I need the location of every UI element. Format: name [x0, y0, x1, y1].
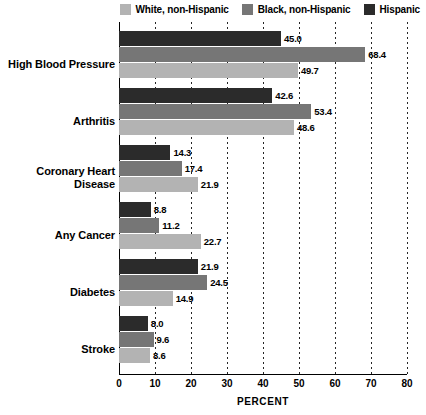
plot-area: 45.068.449.742.653.448.614.317.421.98.81…: [119, 22, 407, 375]
bar-hispanic: [119, 316, 148, 331]
bar-row: 45.0: [119, 31, 407, 46]
bar-row: 14.9: [119, 291, 407, 306]
x-tick-label-40: 40: [251, 378, 275, 390]
category-label-line: High Blood Pressure: [0, 58, 115, 71]
legend-item-white-non-hispanic: White, non-Hispanic: [120, 4, 229, 15]
bar-value-label: 8.8: [154, 203, 167, 216]
legend-label-black-non-hispanic: Black, non-Hispanic: [258, 4, 351, 15]
bar-value-label: 68.4: [368, 48, 386, 61]
bar-value-label: 53.4: [314, 105, 332, 118]
bar-white-non-hispanic: [119, 291, 173, 306]
category-axis-labels: High Blood Pressure Arthritis Coronary H…: [0, 22, 115, 375]
bar-hispanic: [119, 88, 272, 103]
bar-white-non-hispanic: [119, 177, 198, 192]
bar-hispanic: [119, 31, 281, 46]
category-label-line: Disease: [0, 178, 115, 191]
gridline-80: [407, 22, 408, 374]
category-label-line: Arthritis: [0, 115, 115, 128]
bar-black-non-hispanic: [119, 47, 365, 62]
bar-value-label: 11.2: [162, 219, 179, 232]
bar-hispanic: [119, 145, 170, 160]
x-axis-title: PERCENT: [119, 396, 407, 407]
bar-value-label: 17.4: [185, 162, 203, 175]
bar-row: 9.6: [119, 332, 407, 347]
bar-row: 8.0: [119, 316, 407, 331]
bar-black-non-hispanic: [119, 275, 207, 290]
bar-row: 68.4: [119, 47, 407, 62]
category-label-any-cancer: Any Cancer: [0, 229, 115, 242]
x-axis-line: [119, 374, 407, 375]
bar-row: 21.9: [119, 177, 407, 192]
bar-hispanic: [119, 259, 198, 274]
bar-value-label: 14.9: [176, 292, 194, 305]
bar-value-label: 8.0: [151, 317, 164, 330]
bar-white-non-hispanic: [119, 348, 150, 363]
legend-item-hispanic: Hispanic: [364, 4, 420, 15]
bar-row: 8.8: [119, 202, 407, 217]
bar-row: 8.6: [119, 348, 407, 363]
x-tick-label-30: 30: [215, 378, 239, 390]
x-tick-label-10: 10: [143, 378, 167, 390]
bar-value-label: 22.7: [204, 235, 222, 248]
bar-value-label: 45.0: [284, 32, 302, 45]
bar-value-label: 21.9: [201, 178, 219, 191]
category-label-line: Coronary Heart: [0, 165, 115, 178]
bar-chart: White, non-Hispanic Black, non-Hispanic …: [0, 0, 426, 415]
bar-white-non-hispanic: [119, 234, 201, 249]
bar-row: 11.2: [119, 218, 407, 233]
x-tick-label-0: 0: [107, 378, 131, 390]
bar-hispanic: [119, 202, 151, 217]
bar-row: 14.3: [119, 145, 407, 160]
category-label-line: Any Cancer: [0, 229, 115, 242]
bar-row: 24.5: [119, 275, 407, 290]
bar-row: 17.4: [119, 161, 407, 176]
bar-group-diabetes: 21.924.514.9: [119, 259, 407, 307]
bar-value-label: 21.9: [201, 260, 219, 273]
x-tick-label-70: 70: [359, 378, 383, 390]
bar-value-label: 9.6: [157, 333, 170, 346]
x-tick-label-50: 50: [287, 378, 311, 390]
bar-value-label: 8.6: [153, 349, 166, 362]
bar-row: 21.9: [119, 259, 407, 274]
legend-item-black-non-hispanic: Black, non-Hispanic: [242, 4, 351, 15]
legend-swatch-black-non-hispanic: [242, 4, 253, 15]
category-label-high-blood-pressure: High Blood Pressure: [0, 58, 115, 71]
legend-label-hispanic: Hispanic: [380, 4, 420, 15]
bar-row: 22.7: [119, 234, 407, 249]
category-label-diabetes: Diabetes: [0, 286, 115, 299]
bar-black-non-hispanic: [119, 104, 311, 119]
bar-row: 48.6: [119, 120, 407, 135]
bar-group-arthritis: 42.653.448.6: [119, 88, 407, 136]
legend-swatch-hispanic: [364, 4, 375, 15]
bar-row: 53.4: [119, 104, 407, 119]
bar-value-label: 14.3: [173, 146, 191, 159]
category-label-line: Stroke: [0, 343, 115, 356]
category-label-line: Diabetes: [0, 286, 115, 299]
bar-value-label: 24.5: [210, 276, 228, 289]
bar-group-coronary-heart-disease: 14.317.421.9: [119, 145, 407, 193]
bar-black-non-hispanic: [119, 332, 154, 347]
x-tick-label-60: 60: [323, 378, 347, 390]
chart-legend: White, non-Hispanic Black, non-Hispanic …: [0, 1, 426, 18]
legend-swatch-white-non-hispanic: [120, 4, 131, 15]
bar-black-non-hispanic: [119, 218, 159, 233]
bar-black-non-hispanic: [119, 161, 182, 176]
category-label-stroke: Stroke: [0, 343, 115, 356]
bar-row: 42.6: [119, 88, 407, 103]
category-label-coronary-heart-disease: Coronary Heart Disease: [0, 165, 115, 191]
bar-group-any-cancer: 8.811.222.7: [119, 202, 407, 250]
bar-group-high-blood-pressure: 45.068.449.7: [119, 31, 407, 79]
bar-group-stroke: 8.09.68.6: [119, 316, 407, 364]
bar-white-non-hispanic: [119, 63, 298, 78]
bar-white-non-hispanic: [119, 120, 294, 135]
x-tick-label-20: 20: [179, 378, 203, 390]
x-tick-label-80: 80: [395, 378, 419, 390]
legend-label-white-non-hispanic: White, non-Hispanic: [136, 4, 229, 15]
bar-value-label: 48.6: [297, 121, 315, 134]
bar-row: 49.7: [119, 63, 407, 78]
category-label-arthritis: Arthritis: [0, 115, 115, 128]
bar-value-label: 42.6: [275, 89, 293, 102]
bar-value-label: 49.7: [301, 64, 319, 77]
